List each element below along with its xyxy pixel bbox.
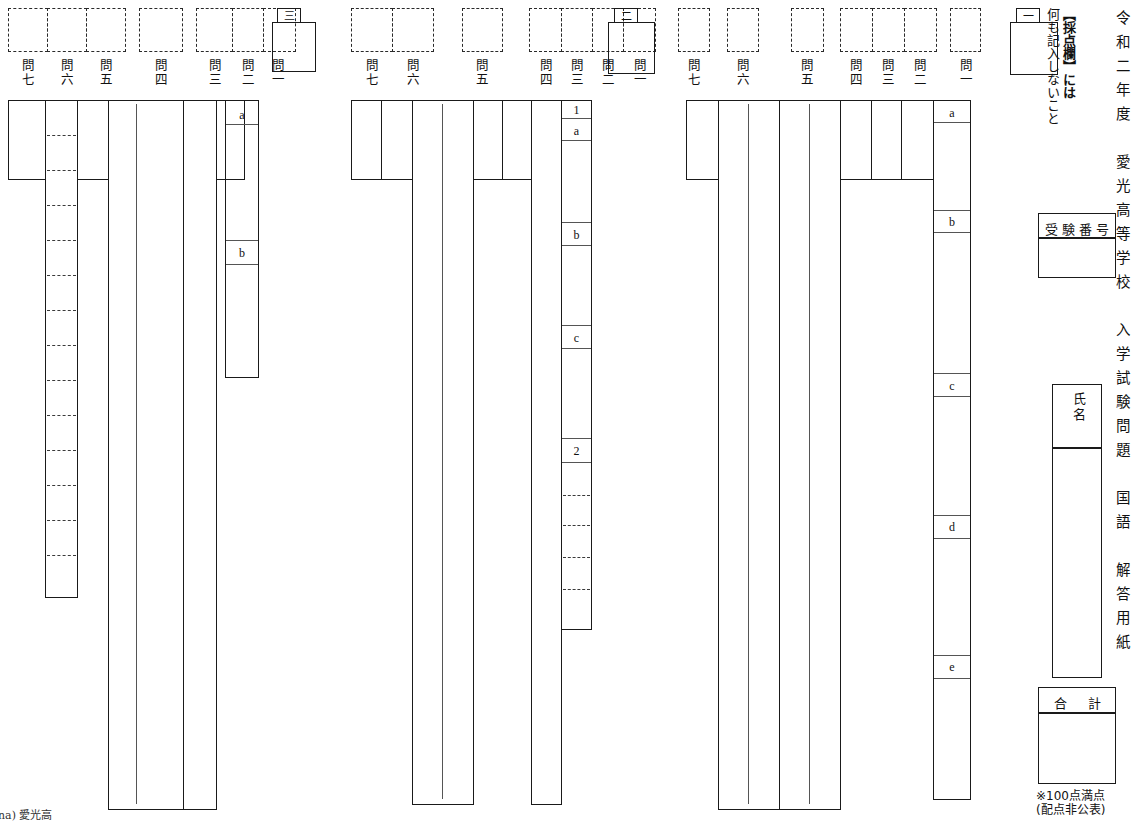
qlabel-char: 問	[18, 59, 38, 73]
answer-col-s3-q3[interactable]	[183, 100, 217, 810]
score-box-s1-g3-1[interactable]	[840, 8, 873, 52]
qlabel-char: 三	[567, 73, 587, 87]
answer-sublabel-s2-b: b	[561, 229, 592, 241]
score-box-s1-g3-3[interactable]	[904, 8, 937, 52]
score-box-s3-g1-1[interactable]	[8, 8, 48, 52]
qlabel-char: 五	[96, 73, 116, 87]
qlabel-char: 七	[684, 73, 704, 87]
qlabel-char: 問	[956, 59, 976, 73]
qlabel-char: 五	[797, 73, 817, 87]
score-box-s1-g1-2[interactable]	[727, 8, 759, 52]
qlabel-s3-6: 問 六	[57, 59, 77, 86]
qlabel-char: 五	[472, 73, 492, 87]
qlabel-char: 問	[684, 59, 704, 73]
score-box-s2-g3-1[interactable]	[529, 8, 562, 52]
section-mark-one: 一	[1016, 11, 1040, 22]
score-box-s2-g3-2[interactable]	[561, 8, 593, 52]
answer-col-s1-q7[interactable]	[686, 100, 719, 180]
score-box-s1-g2-1[interactable]	[791, 8, 824, 52]
answer-col-s1-q4[interactable]	[840, 100, 872, 180]
qlabel-char: 四	[846, 73, 866, 87]
qlabel-s3-3: 問 三	[205, 59, 225, 86]
qlabel-char: 六	[733, 73, 753, 87]
qlabel-s2-3: 問 三	[567, 59, 587, 86]
answer-col-s2-q6[interactable]	[381, 100, 413, 180]
answer-col-s1-q3[interactable]	[871, 100, 902, 180]
qlabel-char: 問	[362, 59, 382, 73]
score-box-s3-g1-2[interactable]	[47, 8, 87, 52]
score-box-s1-g3-2[interactable]	[872, 8, 905, 52]
qlabel-s3-1: 問 一	[268, 59, 288, 86]
answer-col-s1-q1[interactable]	[933, 100, 971, 800]
section-mark-two: 二	[614, 11, 638, 22]
section-mark-three: 三	[277, 11, 301, 22]
scoring-warning-note-2: 何も記入しないこと	[1046, 8, 1059, 198]
qlabel-char: 問	[238, 59, 258, 73]
answer-col-s3-q7[interactable]	[8, 100, 46, 180]
answer-sublabel-s2-1: 1	[561, 104, 592, 116]
answer-col-s3-q5[interactable]	[77, 100, 109, 180]
answer-col-s2-q4[interactable]	[473, 100, 503, 180]
qlabel-s1-1: 問 一	[956, 59, 976, 86]
qlabel-char: 六	[57, 73, 77, 87]
answer-col-s1-q6[interactable]	[718, 100, 780, 810]
qlabel-s3-4: 問 四	[151, 59, 171, 86]
answer-col-s3-q4[interactable]	[108, 100, 184, 810]
qlabel-char: 二	[238, 73, 258, 87]
qlabel-s1-6: 問 六	[733, 59, 753, 86]
qlabel-char: 問	[96, 59, 116, 73]
answer-sublabel-s1-b: b	[933, 216, 971, 228]
score-box-s2-g1-1[interactable]	[351, 8, 393, 52]
qlabel-s1-2: 問 二	[910, 59, 930, 86]
qlabel-s2-7: 問 七	[362, 59, 382, 86]
qlabel-char: 問	[630, 59, 650, 73]
warning-line-1: 【採点欄】には	[1061, 8, 1076, 99]
answer-col-s2-q5[interactable]	[412, 100, 474, 805]
total-score-label: 合 計	[1040, 693, 1118, 712]
qlabel-char: 三	[205, 73, 225, 87]
score-box-s3-g3-1[interactable]	[196, 8, 233, 52]
qlabel-char: 問	[797, 59, 817, 73]
answer-sublabel-s1-e: e	[933, 661, 971, 673]
answer-col-s1-q5-centerline	[809, 104, 810, 804]
score-box-s1-g4-1[interactable]	[950, 8, 981, 52]
answer-col-s1-q5[interactable]	[779, 100, 841, 810]
score-box-s2-g1-2[interactable]	[392, 8, 434, 52]
answer-col-s2-q1[interactable]	[561, 100, 592, 630]
score-box-s3-g2-1[interactable]	[139, 8, 183, 52]
qlabel-s3-5: 問 五	[96, 59, 116, 86]
qlabel-char: 七	[362, 73, 382, 87]
answer-col-s2-q7[interactable]	[351, 100, 382, 180]
qlabel-s1-5: 問 五	[797, 59, 817, 86]
score-box-s3-g3-2[interactable]	[232, 8, 264, 52]
qlabel-char: 問	[598, 59, 618, 73]
qlabel-s1-4: 問 四	[846, 59, 866, 86]
answer-sublabel-s2-c: c	[561, 332, 592, 344]
qlabel-char: 一	[268, 73, 288, 87]
answer-col-s3-q6[interactable]	[45, 100, 78, 598]
qlabel-s2-4: 問 四	[536, 59, 556, 86]
answer-sublabel-s1-c: c	[933, 380, 971, 392]
answer-col-s2-q3[interactable]	[502, 100, 532, 180]
score-box-s2-g2-1[interactable]	[462, 8, 503, 52]
answer-col-s1-q2[interactable]	[901, 100, 934, 180]
score-box-s1-g1-1[interactable]	[678, 8, 710, 52]
qlabel-s1-7: 問 七	[684, 59, 704, 86]
qlabel-s2-5: 問 五	[472, 59, 492, 86]
answer-col-s3-q4-centerline	[136, 104, 137, 804]
answer-sublabel-s1-a: a	[933, 107, 971, 119]
score-box-s3-g1-3[interactable]	[86, 8, 126, 52]
answer-sublabel-s1-d: d	[933, 521, 971, 533]
qlabel-char: 問	[846, 59, 866, 73]
qlabel-char: 四	[151, 73, 171, 87]
qlabel-char: 問	[567, 59, 587, 73]
name-label-text: 氏名	[1071, 392, 1086, 424]
name-label: 氏名	[1068, 392, 1088, 446]
score-note-line-1: ※100点満点	[1036, 789, 1105, 803]
qlabel-char: 二	[598, 73, 618, 87]
qlabel-char: 六	[403, 73, 423, 87]
answer-col-s2-q2[interactable]	[531, 100, 562, 805]
answer-col-s3-q1[interactable]	[225, 100, 259, 378]
exam-number-label: 受験番号	[1040, 219, 1118, 238]
answer-col-s2-q5-centerline	[442, 104, 443, 799]
